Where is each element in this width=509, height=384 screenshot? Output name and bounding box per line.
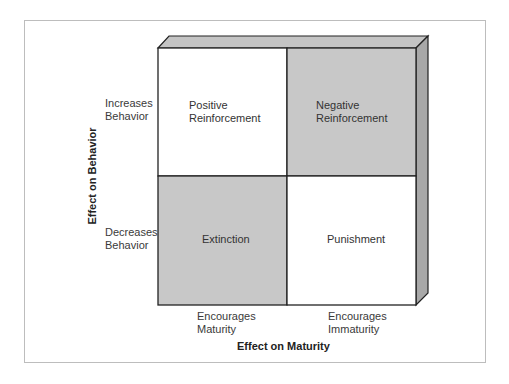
- label-extinction: Extinction: [202, 233, 250, 246]
- label-punishment: Punishment: [327, 233, 385, 246]
- x-label-line2: Maturity: [197, 323, 256, 336]
- x-label-line1: Encourages: [328, 310, 387, 323]
- y-label-line2: Behavior: [105, 239, 158, 252]
- y-label-line1: Increases: [105, 97, 153, 110]
- box-top-face: [158, 36, 428, 48]
- x-label-line1: Encourages: [197, 310, 256, 323]
- y-axis-title: Effect on Behavior: [86, 127, 98, 224]
- cell-text-line2: Reinforcement: [316, 112, 388, 125]
- label-positive-reinforcement: Positive Reinforcement: [189, 99, 261, 125]
- y-label-line1: Decreases: [105, 226, 158, 239]
- cell-text-line1: Positive: [189, 99, 261, 112]
- x-label-encourages-immaturity: Encourages Immaturity: [328, 310, 387, 336]
- y-label-decreases-behavior: Decreases Behavior: [105, 226, 158, 252]
- label-negative-reinforcement: Negative Reinforcement: [316, 99, 388, 125]
- cell-text-line2: Reinforcement: [189, 112, 261, 125]
- box-side-face: [416, 36, 428, 305]
- cell-text-line1: Extinction: [202, 233, 250, 246]
- x-label-encourages-maturity: Encourages Maturity: [197, 310, 256, 336]
- cell-text-line1: Negative: [316, 99, 388, 112]
- y-label-increases-behavior: Increases Behavior: [105, 97, 153, 123]
- x-axis-title: Effect on Maturity: [237, 340, 330, 352]
- cell-text-line1: Punishment: [327, 233, 385, 246]
- y-label-line2: Behavior: [105, 110, 153, 123]
- x-label-line2: Immaturity: [328, 323, 387, 336]
